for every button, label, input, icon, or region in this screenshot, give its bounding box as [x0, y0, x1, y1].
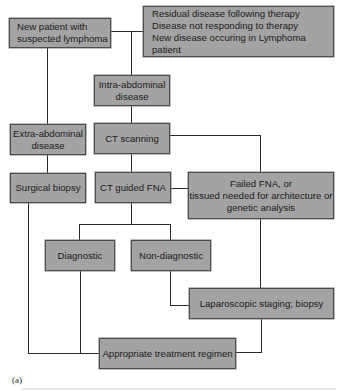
node-treatment: Appropriate treatment regimen — [99, 338, 236, 369]
node-text: Laparoscopic staging; biopsy — [200, 298, 324, 310]
edge-ctfna-split-v — [131, 203, 132, 225]
edge-ctfna-failed — [171, 188, 188, 189]
edge-nondiag-lap-v — [170, 271, 171, 306]
edge-split-h — [79, 224, 171, 225]
node-text: Residual disease following therapy — [152, 8, 333, 20]
edge-extra-surgical — [47, 155, 48, 173]
node-text: Non-diagnostic — [139, 250, 203, 262]
edge-surgical-treat-h — [28, 353, 99, 354]
flowchart: New patient with suspected lymphoma Resi… — [0, 0, 346, 391]
edge-failed-lap — [260, 218, 261, 288]
node-text: Surgical biopsy — [15, 182, 80, 194]
node-laparoscopic: Laparoscopic staging; biopsy — [189, 288, 334, 319]
node-failed-fna: Failed FNA, or tissued needed for archit… — [188, 172, 334, 219]
node-text: suspected lymphoma — [17, 33, 108, 45]
node-text: CT scanning — [105, 133, 159, 145]
node-text: New patient with — [17, 21, 108, 33]
node-text: Disease not responding to therapy — [152, 20, 333, 32]
node-text: Appropriate treatment regimen — [102, 348, 232, 360]
node-non-diagnostic: Non-diagnostic — [131, 240, 211, 271]
node-text: Diagnostic — [58, 250, 103, 262]
node-surgical-biopsy: Surgical biopsy — [10, 173, 86, 203]
node-text: CT guided FNA — [100, 182, 166, 194]
node-text: Failed FNA, or — [190, 178, 333, 190]
edge-ct-failed-v — [260, 135, 261, 172]
node-ct-scanning: CT scanning — [94, 123, 170, 154]
node-extra-abdominal: Extra-abdominal disease — [10, 124, 86, 155]
edge-newpatient-intra — [131, 31, 132, 75]
edge-split-diagnostic — [79, 224, 80, 240]
edge-ct-ctfna — [131, 154, 132, 172]
edge-newpatient-residual — [111, 31, 143, 32]
edge-surgical-treat-v — [28, 203, 29, 354]
edge-nondiag-lap-h — [170, 305, 189, 306]
node-text: disease — [99, 91, 166, 103]
node-text: genetic analysis — [190, 202, 333, 214]
edge-split-nondiagnostic — [170, 224, 171, 240]
node-intra-abdominal: Intra-abdominal disease — [94, 75, 170, 106]
node-text: Extra-abdominal — [13, 128, 83, 140]
edge-newpatient-extra — [47, 48, 48, 124]
node-text: Intra-abdominal — [99, 79, 166, 91]
bottom-rule — [22, 388, 336, 390]
node-ct-guided-fna: CT guided FNA — [95, 172, 171, 203]
figure-label: (a) — [12, 375, 22, 385]
node-text: disease — [13, 140, 83, 152]
node-text: New disease occuring in Lymphoma patient — [152, 32, 333, 56]
edge-lap-treat-v — [261, 319, 262, 353]
node-residual-disease: Residual disease following therapy Disea… — [143, 6, 334, 57]
edge-diag-treat — [80, 271, 81, 354]
edge-lap-treat-h — [236, 352, 262, 353]
edge-intra-ct — [131, 106, 132, 123]
node-diagnostic: Diagnostic — [45, 240, 115, 271]
node-new-patient: New patient with suspected lymphoma — [9, 18, 111, 48]
edge-ct-failed-h — [170, 135, 261, 136]
node-text: tissued needed for architecture or — [190, 190, 333, 202]
